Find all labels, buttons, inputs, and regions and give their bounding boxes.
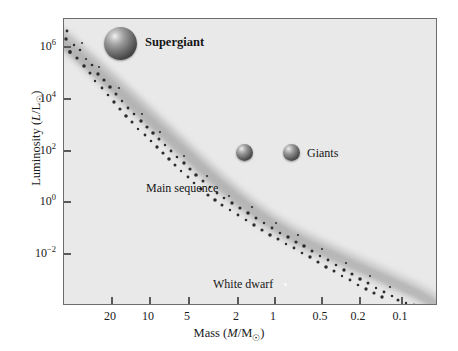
x-tick-label-5: 0.5 <box>300 310 340 322</box>
y-tick-0 <box>64 46 71 48</box>
x-axis-title-suffix: ) <box>260 326 264 340</box>
x-axis-title-symbol: M <box>227 326 237 340</box>
white-dwarf-label: White dwarf <box>213 278 273 290</box>
y-axis-title-suffix: ) <box>29 91 43 95</box>
y-axis-title-symbol: L <box>29 114 43 121</box>
y-tick-exponent: 6 <box>52 37 56 47</box>
y-tick-mantissa: 10 <box>35 246 47 260</box>
x-axis-title-prefix: Mass ( <box>194 326 228 340</box>
y-tick-exponent: 0 <box>52 192 56 202</box>
main-sequence-band <box>64 19 437 305</box>
supergiant-star-marker <box>104 27 137 60</box>
y-tick-exponent: −2 <box>47 244 56 254</box>
giants-label: Giants <box>307 147 338 159</box>
x-tick-4 <box>274 297 276 304</box>
x-tick-label-4: 1 <box>253 310 293 322</box>
giant-left-star-marker <box>236 144 253 161</box>
white-dwarf-marker <box>284 283 287 286</box>
x-axis-title-mid: /M <box>238 326 253 340</box>
x-tick-label-6: 0.2 <box>338 310 378 322</box>
giant-right-star-marker <box>283 144 300 161</box>
supergiant-label: Supergiant <box>145 36 204 49</box>
x-tick-1 <box>149 297 151 304</box>
x-tick-7 <box>401 297 403 304</box>
x-axis-title: Mass (M/M☉) <box>0 326 458 343</box>
x-tick-label-3: 2 <box>216 310 256 322</box>
x-tick-0 <box>111 297 113 304</box>
band-halo <box>64 37 437 305</box>
y-tick-exponent: 2 <box>52 141 56 151</box>
y-axis-title: Luminosity (L/L☉) <box>29 38 46 238</box>
plot-area: Supergiant Giants Main sequence White dw… <box>63 18 437 305</box>
x-tick-3 <box>237 297 239 304</box>
x-tick-label-7: 0.1 <box>380 310 420 322</box>
y-tick-2 <box>64 150 71 152</box>
y-axis-title-mid: /L <box>29 103 43 114</box>
y-axis-sun-symbol: ☉ <box>35 95 45 103</box>
y-tick-label-4: 10−2 <box>10 245 56 259</box>
x-tick-label-0: 20 <box>90 310 130 322</box>
y-tick-4 <box>64 253 71 255</box>
x-tick-5 <box>321 297 323 304</box>
x-tick-6 <box>359 297 361 304</box>
y-axis-title-prefix: Luminosity ( <box>29 121 43 186</box>
y-tick-3 <box>64 201 71 203</box>
y-tick-1 <box>64 98 71 100</box>
y-tick-exponent: 4 <box>52 89 56 99</box>
main-sequence-label: Main sequence <box>146 182 218 194</box>
x-tick-2 <box>188 297 190 304</box>
x-tick-label-2: 5 <box>167 310 207 322</box>
hr-mass-luminosity-figure: 10610410210010−2 Luminosity (L/L☉) <box>0 0 458 351</box>
x-tick-label-1: 10 <box>128 310 168 322</box>
